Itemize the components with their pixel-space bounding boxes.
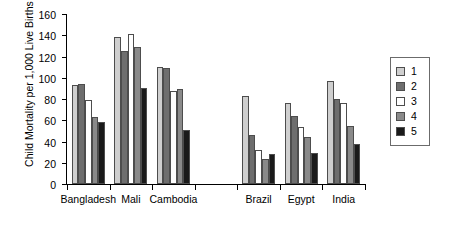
y-axis-tick: 100 <box>62 78 67 79</box>
x-axis-tick <box>365 184 366 190</box>
legend-swatch-icon <box>396 112 405 121</box>
y-axis-tick-label: 0 <box>50 179 56 191</box>
y-axis-tick-label: 20 <box>44 158 56 170</box>
x-axis-category-label: Mali <box>121 193 140 205</box>
bar-group: Cambodia <box>157 14 190 184</box>
bar-group-bars <box>199 14 232 184</box>
bar-group-bars <box>72 14 105 184</box>
bar <box>72 85 79 184</box>
legend-item-label: 5 <box>411 126 417 137</box>
bar-group <box>199 14 232 184</box>
bar-group-bars <box>114 14 147 184</box>
bar-group-bars <box>285 14 318 184</box>
bar <box>92 117 99 184</box>
legend: 12345 <box>390 57 430 146</box>
bar <box>85 100 92 184</box>
y-axis-tick: 20 <box>62 163 67 164</box>
bar <box>354 144 361 184</box>
bar <box>285 103 292 184</box>
y-axis-tick: 160 <box>62 14 67 15</box>
y-axis-tick: 80 <box>62 99 67 100</box>
legend-item[interactable]: 1 <box>396 64 425 79</box>
bar-group-bars <box>242 14 275 184</box>
legend-swatch-icon <box>396 97 405 106</box>
x-axis-category-label: India <box>332 193 355 205</box>
x-axis-tick <box>322 184 323 190</box>
bar <box>327 81 334 184</box>
bar <box>78 84 85 184</box>
x-axis-tick <box>237 184 238 190</box>
x-axis-category-label: Egypt <box>288 193 315 205</box>
legend-swatch-icon <box>396 67 405 76</box>
bar-group-bars <box>327 14 360 184</box>
x-axis-tick <box>152 184 153 190</box>
bar <box>134 47 141 184</box>
bar <box>291 116 298 184</box>
y-axis-tick: 40 <box>62 142 67 143</box>
bar <box>141 88 148 184</box>
bar <box>114 37 121 184</box>
y-axis-tick: 140 <box>62 35 67 36</box>
bar <box>298 127 305 184</box>
legend-item[interactable]: 2 <box>396 79 425 94</box>
y-axis-tick: 60 <box>62 120 67 121</box>
bar <box>242 96 249 184</box>
bar <box>170 91 177 185</box>
bar-group: Brazil <box>242 14 275 184</box>
x-axis-category-label: Brazil <box>245 193 271 205</box>
legend-item[interactable]: 3 <box>396 94 425 109</box>
bar <box>163 68 170 184</box>
y-axis-tick-label: 160 <box>38 9 56 21</box>
bar <box>98 122 105 184</box>
legend-swatch-icon <box>396 82 405 91</box>
bar-group: Egypt <box>285 14 318 184</box>
legend-swatch-icon <box>396 127 405 136</box>
bar <box>334 99 341 184</box>
x-axis-category-label: Cambodia <box>149 193 197 205</box>
bar <box>340 103 347 184</box>
y-axis-tick-label: 40 <box>44 137 56 149</box>
y-axis-tick-label: 120 <box>38 52 56 64</box>
legend-item-label: 2 <box>411 81 417 92</box>
bar-group: Bangladesh <box>72 14 105 184</box>
plot-area: 020406080100120140160 BangladeshMaliCamb… <box>66 14 365 185</box>
y-axis-tick-label: 80 <box>44 94 56 106</box>
y-axis-tick-label: 140 <box>38 30 56 42</box>
bar <box>255 150 262 184</box>
x-axis-tick <box>67 184 68 190</box>
bar <box>347 126 354 184</box>
y-axis-title: Child Mortality per 1,000 Live Births <box>23 0 35 179</box>
bar <box>269 154 276 184</box>
bar <box>249 135 256 184</box>
legend-item[interactable]: 4 <box>396 109 425 124</box>
legend-item-label: 4 <box>411 111 417 122</box>
x-axis-category-label: Bangladesh <box>61 193 116 205</box>
bar <box>121 51 128 184</box>
y-axis-tick: 120 <box>62 57 67 58</box>
x-axis-tick <box>195 184 196 190</box>
bar <box>128 34 135 184</box>
bar-group: India <box>327 14 360 184</box>
legend-item[interactable]: 5 <box>396 124 425 139</box>
bar <box>262 159 269 185</box>
legend-item-label: 3 <box>411 96 417 107</box>
y-axis-tick-label: 60 <box>44 115 56 127</box>
bar-group-bars <box>157 14 190 184</box>
y-axis-tick-label: 100 <box>38 73 56 85</box>
bar <box>304 137 311 184</box>
bar <box>183 130 190 184</box>
x-axis-tick <box>280 184 281 190</box>
legend-item-label: 1 <box>411 66 417 77</box>
bar-chart: Child Mortality per 1,000 Live Births 02… <box>0 0 458 237</box>
bar <box>157 67 164 184</box>
bar <box>311 153 318 184</box>
bar-group: Mali <box>114 14 147 184</box>
x-axis-tick <box>110 184 111 190</box>
bar <box>177 89 184 184</box>
